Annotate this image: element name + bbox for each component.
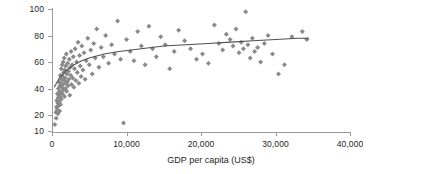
data-markers — [52, 9, 309, 127]
data-point — [224, 32, 229, 37]
data-point — [139, 44, 144, 49]
data-point — [241, 46, 246, 51]
data-point — [220, 48, 225, 53]
data-point — [72, 66, 77, 71]
data-point — [245, 42, 250, 47]
data-point — [212, 22, 217, 27]
data-point — [99, 45, 104, 50]
data-point — [91, 41, 96, 46]
data-point — [52, 122, 57, 127]
data-point — [276, 71, 281, 76]
data-point — [300, 29, 305, 34]
data-point — [234, 26, 239, 31]
data-point — [78, 63, 83, 68]
data-point — [158, 34, 163, 39]
data-point — [266, 33, 271, 38]
data-point — [121, 121, 126, 126]
data-point — [248, 56, 253, 61]
data-point — [79, 44, 84, 49]
data-point — [80, 67, 85, 72]
data-point — [124, 37, 129, 42]
data-point — [88, 48, 93, 53]
data-point — [71, 54, 76, 59]
data-point — [167, 66, 172, 71]
data-point — [176, 28, 181, 33]
data-point — [231, 44, 236, 49]
data-point — [143, 62, 148, 67]
data-point — [79, 74, 84, 79]
data-point — [250, 36, 255, 41]
data-point — [103, 33, 108, 38]
data-point — [76, 40, 81, 45]
data-point — [96, 65, 101, 70]
data-point — [94, 26, 99, 31]
plot-area — [0, 0, 422, 174]
data-point — [106, 61, 111, 66]
scatter-chart: 1020406080100 010,00020,00030,00040,000 … — [0, 0, 422, 174]
data-point — [83, 77, 88, 82]
data-point — [228, 37, 233, 42]
data-point — [255, 45, 260, 50]
data-point — [75, 70, 80, 75]
data-point — [62, 56, 67, 61]
data-point — [182, 38, 187, 43]
data-point — [146, 24, 151, 29]
data-point — [82, 50, 87, 55]
data-point — [200, 52, 205, 57]
data-point — [69, 49, 74, 54]
data-point — [115, 18, 120, 23]
data-point — [73, 46, 78, 51]
data-point — [194, 57, 199, 62]
data-point — [109, 42, 114, 47]
data-point — [252, 49, 257, 54]
data-point — [64, 52, 69, 57]
data-point — [236, 50, 241, 55]
data-point — [154, 54, 159, 59]
data-point — [258, 60, 263, 65]
data-point — [85, 36, 90, 41]
x-axis-label: GDP per capita (US$) — [0, 156, 422, 165]
data-point — [282, 62, 287, 67]
data-point — [172, 49, 177, 54]
data-point — [118, 57, 123, 62]
data-point — [188, 46, 193, 51]
data-point — [262, 41, 267, 46]
data-point — [270, 52, 275, 57]
data-point — [206, 61, 211, 66]
data-point — [90, 71, 95, 76]
trend-line — [54, 38, 309, 87]
data-point — [243, 9, 248, 14]
data-point — [77, 53, 82, 58]
data-point — [131, 58, 136, 63]
data-point — [54, 116, 59, 121]
data-point — [135, 29, 140, 34]
data-point — [67, 93, 72, 98]
data-point — [87, 62, 92, 67]
